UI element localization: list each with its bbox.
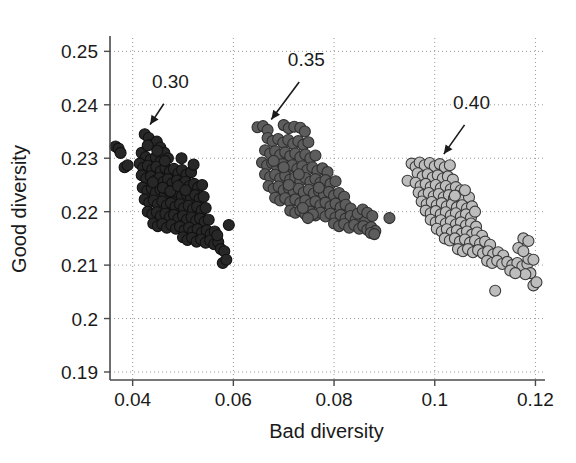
data-point	[188, 159, 199, 170]
data-point	[223, 220, 234, 231]
y-tick-label: 0.22	[61, 202, 98, 223]
data-point	[444, 160, 455, 171]
data-point	[330, 176, 341, 187]
x-tick-label: 0.1	[422, 389, 448, 410]
data-point	[367, 210, 378, 221]
y-axis-title: Good diversity	[8, 145, 30, 273]
x-tick-label: 0.06	[215, 389, 252, 410]
y-tick-label: 0.25	[61, 41, 98, 62]
x-tick-label: 0.04	[114, 389, 151, 410]
data-point	[518, 246, 529, 257]
data-point	[152, 145, 163, 156]
data-point	[459, 185, 470, 196]
data-point	[147, 177, 158, 188]
annotation-label: 0.40	[453, 92, 490, 113]
data-point	[490, 285, 501, 296]
data-point	[470, 206, 481, 217]
data-point	[268, 155, 279, 166]
data-point	[200, 202, 211, 213]
data-point	[449, 190, 460, 201]
chart-canvas: 0.040.060.080.10.120.190.20.210.220.230.…	[0, 0, 576, 463]
y-tick-label: 0.24	[61, 95, 98, 116]
data-point	[302, 213, 313, 224]
data-point	[221, 254, 232, 265]
data-point	[176, 153, 187, 164]
data-point	[297, 202, 308, 213]
data-point	[283, 179, 294, 190]
y-tick-label: 0.23	[61, 148, 98, 169]
data-point	[122, 160, 133, 171]
data-point	[523, 236, 534, 247]
data-point	[313, 182, 324, 193]
x-tick-label: 0.08	[316, 389, 353, 410]
data-point	[278, 162, 289, 173]
data-point	[369, 229, 380, 240]
data-point	[203, 214, 214, 225]
data-point	[310, 150, 321, 161]
x-axis-title: Bad diversity	[269, 420, 384, 442]
data-point	[299, 126, 310, 137]
y-tick-label: 0.2	[72, 309, 98, 330]
x-tick-label: 0.12	[517, 389, 554, 410]
data-point	[197, 179, 208, 190]
scatter-plot-figure: 0.040.060.080.10.120.190.20.210.220.230.…	[0, 0, 576, 463]
data-point	[520, 269, 531, 280]
data-point	[293, 169, 304, 180]
y-tick-label: 0.21	[61, 255, 98, 276]
data-point	[115, 147, 126, 158]
data-point	[198, 191, 209, 202]
annotation-label: 0.35	[288, 49, 325, 70]
data-point	[159, 155, 170, 166]
data-point	[531, 277, 542, 288]
annotation-label: 0.30	[152, 71, 189, 92]
data-point	[212, 230, 223, 241]
data-point	[528, 254, 539, 265]
y-tick-label: 0.19	[61, 362, 98, 383]
data-point	[384, 213, 395, 224]
data-point	[180, 185, 191, 196]
data-point	[303, 137, 314, 148]
data-point	[510, 268, 521, 279]
